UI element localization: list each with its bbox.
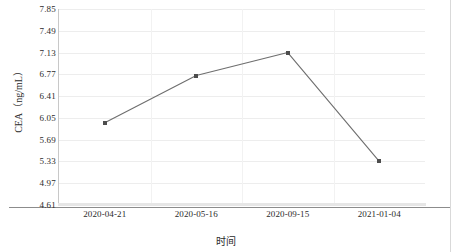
data-point-marker [286, 51, 290, 55]
data-point-marker [194, 74, 198, 78]
x-axis-title: 时间 [0, 233, 451, 248]
data-point-marker [103, 121, 107, 125]
series-line-cea [0, 0, 451, 252]
y-axis-title: CEA（ng/mL） [10, 45, 25, 155]
chart-screenshot: 7.857.497.136.776.416.055.695.334.974.61… [0, 0, 458, 252]
data-point-marker [377, 159, 381, 163]
line-chart-figure: 7.857.497.136.776.416.055.695.334.974.61… [0, 0, 451, 252]
